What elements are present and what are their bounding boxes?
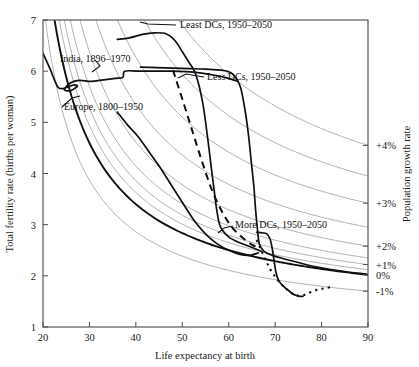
y2-tick-label-0pct: 0%: [376, 270, 390, 281]
y-tick-label-2: 2: [31, 271, 36, 282]
chart-container: 20304050607080901234567+4%+3%+2%+1%0%-1%…: [0, 0, 419, 367]
x-tick-label-20: 20: [38, 332, 49, 343]
y2-axis-title: Population growth rate: [401, 126, 412, 223]
y-tick-label-7: 7: [31, 15, 36, 26]
y-axis-title: Total fertility rate (births per woman): [4, 95, 16, 253]
iso-growth-curve-plus3pct: [108, 0, 368, 203]
annotation-less-dcs: Less DCs, 1950–2050: [207, 71, 296, 82]
leader-line-less-dcs: [178, 74, 204, 78]
annotation-europe: Europe, 1800–1950: [64, 101, 143, 112]
x-tick-label-60: 60: [223, 332, 234, 343]
annotation-more-dcs: More DCs, 1950–2050: [235, 219, 327, 230]
x-tick-label-30: 30: [84, 332, 95, 343]
y2-tick-label-plus4pct: +4%: [376, 140, 396, 151]
x-tick-label-40: 40: [131, 332, 142, 343]
x-tick-label-90: 90: [363, 332, 374, 343]
y-tick-label-6: 6: [31, 66, 36, 77]
y-tick-label-5: 5: [31, 117, 36, 128]
series-annotations: Least DCs, 1950–2050India, 1896–1970Less…: [60, 19, 327, 233]
y-tick-label-3: 3: [31, 220, 36, 231]
annotation-least-dcs: Least DCs, 1950–2050: [180, 19, 272, 30]
y2-tick-label-plus2pct: +2%: [376, 241, 396, 252]
x-tick-label-70: 70: [270, 332, 281, 343]
y-tick-label-4: 4: [31, 169, 37, 180]
y-tick-label-1: 1: [31, 322, 36, 333]
x-axis-title: Life expectancy at birth: [155, 350, 256, 361]
iso-growth-curve-u3: [89, 0, 368, 227]
annotation-india: India, 1896–1970: [60, 53, 131, 64]
x-tick-label-50: 50: [177, 332, 188, 343]
x-tick-label-80: 80: [316, 332, 327, 343]
y2-tick-label--1pct: -1%: [376, 286, 394, 297]
y2-tick-label-plus3pct: +3%: [376, 198, 396, 209]
iso-growth-contours: [43, 0, 368, 291]
fertility-life-expectancy-chart: 20304050607080901234567+4%+3%+2%+1%0%-1%…: [0, 0, 419, 367]
